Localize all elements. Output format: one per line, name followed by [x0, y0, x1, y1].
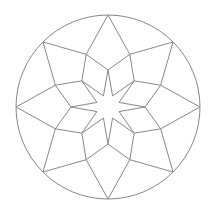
mandala-diagram [0, 0, 213, 207]
kite-shape [43, 129, 86, 172]
kite-shape [86, 144, 130, 199]
kite-shape [16, 85, 71, 129]
center-star [71, 70, 145, 144]
kite-shape [43, 42, 86, 85]
kite-shape [145, 85, 200, 129]
kite-shape [130, 42, 173, 85]
kites-group [16, 15, 200, 199]
kite-shape [130, 129, 173, 172]
kite-shape [86, 15, 130, 70]
